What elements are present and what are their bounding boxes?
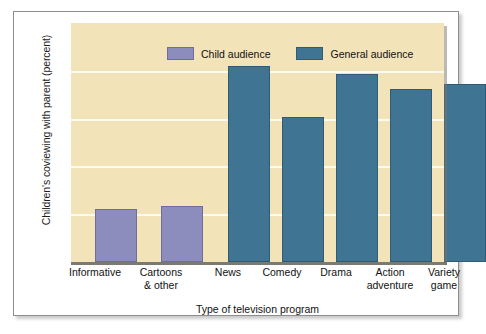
bar-news	[228, 66, 270, 262]
bar-action-adventure	[390, 89, 432, 262]
legend-entry-child-audience: Child audience	[167, 47, 270, 60]
bar-comedy	[282, 117, 324, 262]
legend-swatch-icon-child	[167, 47, 194, 60]
legend-label-child: Child audience	[201, 48, 270, 60]
bar-informative	[95, 209, 137, 262]
bar-cartoons-other	[161, 206, 203, 262]
plot-area: Child audience General audience	[71, 23, 444, 262]
legend-swatch-icon-general	[296, 47, 323, 60]
x-tick-line2: game	[405, 279, 483, 292]
y-axis-title: Children's coviewing with parent (percen…	[40, 10, 52, 250]
x-axis-line	[71, 262, 447, 265]
legend-entry-general-audience: General audience	[296, 47, 413, 60]
bar-drama	[336, 74, 378, 262]
x-axis-title: Type of television program	[71, 303, 444, 315]
x-tick-line2: & other	[122, 279, 200, 292]
x-tick-label-variety-game: Variety game	[405, 266, 483, 291]
bar-variety-game	[444, 84, 486, 262]
x-tick-line1: Variety	[405, 266, 483, 279]
legend-label-general: General audience	[330, 48, 413, 60]
chart-legend: Child audience General audience	[167, 47, 413, 60]
chart-frame: Children's coviewing with parent (percen…	[13, 11, 459, 316]
